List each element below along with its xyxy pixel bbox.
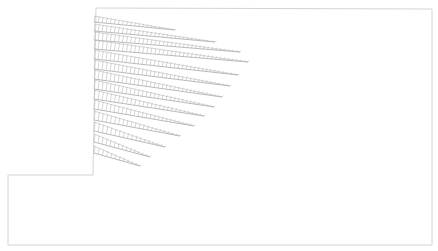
domain-outline [8, 8, 432, 245]
load-row [94, 16, 176, 30]
load-field-diagram [0, 0, 438, 251]
load-row [94, 122, 166, 147]
load-row [94, 50, 239, 75]
load-row [94, 146, 141, 166]
diagram-canvas [0, 0, 438, 251]
load-rows [94, 16, 249, 166]
load-row [94, 111, 181, 136]
load-row [94, 100, 195, 126]
